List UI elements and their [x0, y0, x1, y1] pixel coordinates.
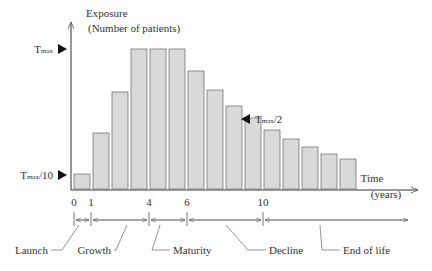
y-marker-label: Tmax/2: [255, 113, 282, 125]
phase-leader-line: [226, 225, 266, 250]
bar-year-13: [321, 154, 337, 189]
bar-year-5: [169, 49, 185, 189]
marker-arrow-icon: [58, 44, 67, 54]
bar-year-1: [93, 133, 109, 189]
phase-leader-line: [320, 225, 340, 250]
x-ticks-group: 014610: [71, 196, 269, 226]
bar-year-7: [207, 90, 223, 189]
bar-year-6: [188, 71, 204, 189]
y-axis-title-line1: Exposure: [86, 7, 128, 19]
product-lifecycle-chart: Exposure (Number of patients) Time (year…: [0, 0, 432, 271]
x-tick-label: 6: [184, 196, 190, 208]
bar-year-0: [74, 174, 90, 189]
bar-year-8: [226, 106, 242, 189]
phase-label-maturity: Maturity: [173, 244, 212, 256]
y-marker-label: Tmax/10: [20, 169, 53, 181]
phase-label-end-of-life: End of life: [343, 244, 390, 256]
y-marker-label: Tmax: [34, 43, 53, 55]
phase-label-launch: Launch: [15, 244, 48, 256]
bar-year-3: [131, 49, 147, 189]
x-tick-label: 1: [88, 196, 94, 208]
bar-year-4: [150, 49, 166, 189]
bar-year-9: [245, 118, 261, 189]
bar-year-10: [264, 130, 280, 189]
x-axis-title-line2: (years): [371, 188, 402, 201]
phase-leader-line: [152, 225, 170, 250]
bar-year-11: [283, 139, 299, 189]
y-axis-title-line2: (Number of patients): [88, 22, 181, 35]
bar-year-14: [340, 159, 356, 189]
bar-year-2: [112, 92, 128, 189]
marker-arrow-icon: [58, 170, 67, 180]
x-tick-label: 0: [71, 196, 77, 208]
phase-leader-line: [114, 225, 127, 250]
bars-group: [74, 49, 356, 189]
x-tick-label: 10: [258, 196, 270, 208]
phase-leader-line: [51, 225, 79, 250]
bar-year-12: [302, 147, 318, 189]
x-axis-title-line1: Time: [361, 172, 384, 184]
phase-label-growth: Growth: [77, 244, 111, 256]
x-tick-label: 4: [146, 196, 152, 208]
phase-label-decline: Decline: [269, 244, 303, 256]
